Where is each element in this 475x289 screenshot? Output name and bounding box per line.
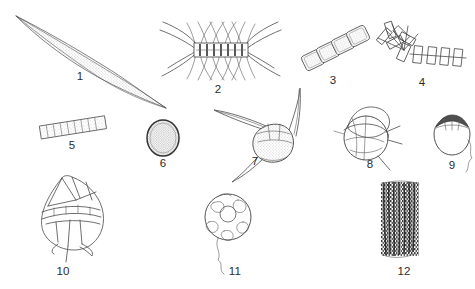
specimen-label-8: 8 xyxy=(367,159,374,171)
specimen-label-3: 3 xyxy=(330,75,337,87)
specimen-label-9: 9 xyxy=(449,160,456,172)
specimen-label-11: 11 xyxy=(229,266,241,278)
specimen-label-10: 10 xyxy=(56,266,69,278)
specimen-label-6: 6 xyxy=(160,158,167,170)
specimen-label-1: 1 xyxy=(77,71,84,83)
specimen-label-12: 12 xyxy=(397,266,410,278)
specimen-4-zigzag-rod-colony xyxy=(377,21,466,66)
specimen-label-5: 5 xyxy=(69,140,76,152)
specimen-label-7: 7 xyxy=(252,156,259,168)
specimen-1-needle-diatom xyxy=(16,16,166,108)
specimen-3-rectangular-cell-chain xyxy=(301,24,371,71)
specimen-11-spherical-flagellate xyxy=(205,194,251,274)
specimen-5-segmented-filament xyxy=(39,116,106,139)
specimen-6-round-granular-cell xyxy=(147,120,179,156)
specimen-10-angular-plated-dinoflagellate xyxy=(42,176,104,262)
specimen-12-filament-bundle xyxy=(381,181,419,257)
specimen-label-2: 2 xyxy=(215,84,222,96)
specimen-7-three-horned-dinoflagellate xyxy=(214,88,300,182)
specimen-label-4: 4 xyxy=(419,77,426,89)
plankton-illustration-plate: 1 2 3 4 5 6 7 8 9 10 11 12 xyxy=(0,0,475,289)
specimen-2-setae-chain-diatom xyxy=(160,22,281,80)
